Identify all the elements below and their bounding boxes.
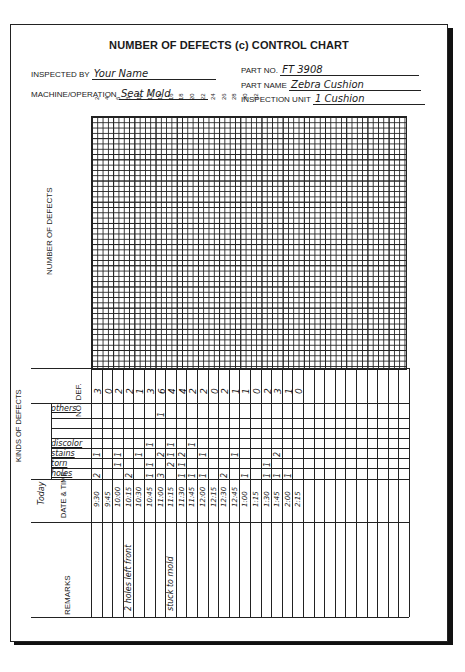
defect-count-cell[interactable]: 1 (188, 473, 197, 478)
time-cell[interactable]: 2:15 (294, 491, 302, 507)
column-tick-label: 28 (231, 93, 237, 100)
col-divider (314, 368, 315, 617)
kind-label-stains: stains (51, 449, 75, 458)
kind-label-torn: torn (51, 459, 67, 468)
time-cell[interactable]: 1:30 (263, 491, 271, 507)
no-def-cell[interactable]: 3 (273, 388, 283, 394)
defect-count-cell[interactable]: 1 (167, 452, 176, 457)
time-cell[interactable]: 2:00 (284, 491, 292, 507)
no-def-cell[interactable]: 0 (294, 388, 304, 394)
time-cell[interactable]: 10:45 (146, 487, 154, 507)
inspection-unit-value[interactable]: 1 Cushion (313, 94, 425, 105)
col-divider (197, 368, 198, 617)
no-def-cell[interactable]: 2 (199, 388, 209, 394)
defect-count-cell[interactable]: 3 (157, 473, 166, 478)
no-def-cell[interactable]: 2 (114, 388, 124, 394)
kind-label-others: others (51, 404, 76, 413)
remark-cell[interactable]: 2 holes left front (124, 545, 133, 611)
defect-count-cell[interactable]: 1 (199, 452, 208, 457)
time-cell[interactable]: 10:15 (125, 487, 133, 507)
no-def-cell[interactable]: 3 (146, 388, 156, 394)
time-cell[interactable]: 12:30 (220, 487, 228, 507)
defect-count-cell[interactable]: 1 (284, 473, 293, 478)
defect-count-cell[interactable]: 2 (125, 473, 134, 478)
no-def-cell[interactable]: 2 (263, 388, 273, 394)
no-def-cell[interactable]: 4 (167, 388, 177, 394)
defect-count-cell[interactable]: 2 (157, 452, 166, 457)
column-tick-label: 6 (115, 97, 121, 100)
col-divider (282, 368, 283, 617)
time-cell[interactable]: 11:30 (178, 487, 186, 507)
defect-count-cell[interactable]: 1 (241, 473, 250, 478)
column-tick-label: 2 (94, 97, 100, 100)
time-cell[interactable]: 10:30 (135, 487, 143, 507)
defect-count-cell[interactable]: 1 (178, 473, 187, 478)
defect-count-cell[interactable]: 1 (146, 473, 155, 478)
inspected-by-value[interactable]: Your Name (92, 69, 216, 80)
time-cell[interactable]: 1:00 (241, 491, 249, 507)
col-divider (367, 368, 368, 617)
no-def-cell[interactable]: 2 (220, 388, 230, 394)
defect-count-cell[interactable]: 1 (157, 412, 166, 417)
no-def-cell[interactable]: 1 (231, 388, 241, 394)
kinds-of-defects-label: KINDS OF DEFECTS (14, 389, 23, 462)
time-cell[interactable]: 11:15 (167, 487, 175, 507)
col-divider (409, 368, 410, 617)
defect-count-cell[interactable]: 2 (178, 452, 187, 457)
row-divider (31, 368, 409, 369)
time-cell[interactable]: 9:45 (104, 491, 112, 507)
no-def-cell[interactable]: 0 (104, 388, 114, 394)
defect-count-cell[interactable]: 1 (263, 462, 272, 467)
defect-count-cell[interactable]: 1 (273, 473, 282, 478)
defect-count-cell[interactable]: 2 (273, 452, 282, 457)
col-divider (388, 368, 389, 617)
part-no-value[interactable]: FT 3908 (280, 65, 419, 76)
time-cell[interactable]: 11:45 (188, 487, 196, 507)
defect-count-cell[interactable]: 1 (135, 452, 144, 457)
no-def-cell[interactable]: 0 (252, 388, 262, 394)
no-def-cell[interactable]: 1 (241, 388, 251, 394)
defect-count-cell[interactable]: 1 (167, 442, 176, 447)
defect-count-cell[interactable]: 2 (93, 473, 102, 478)
defect-count-cell[interactable]: 1 (114, 462, 123, 467)
time-cell[interactable]: 11:00 (157, 487, 165, 507)
time-cell[interactable]: 12:00 (199, 487, 207, 507)
no-def-cell[interactable]: 2 (188, 388, 198, 394)
no-def-cell[interactable]: 3 (93, 388, 103, 394)
defect-count-cell[interactable]: 1 (199, 473, 208, 478)
no-def-cell[interactable]: 1 (135, 388, 145, 394)
time-cell[interactable]: 1:45 (273, 491, 281, 507)
kind-label-holes: holes (51, 469, 72, 478)
no-def-cell[interactable]: 2 (125, 388, 135, 394)
remark-cell[interactable]: stuck to mold (166, 556, 175, 611)
defect-count-cell[interactable]: 1 (93, 452, 102, 457)
plot-grid[interactable] (91, 116, 407, 370)
no-def-cell[interactable]: 4 (178, 388, 188, 394)
defect-count-cell[interactable]: 1 (263, 473, 272, 478)
column-tick-label: 24 (210, 93, 216, 100)
time-cell[interactable]: 10:00 (114, 487, 122, 507)
column-tick-label: 10 (136, 93, 142, 100)
col-divider (335, 368, 336, 617)
no-def-cell[interactable]: 0 (210, 388, 220, 394)
no-def-cell[interactable]: 1 (284, 388, 294, 394)
col-divider (250, 368, 251, 617)
defect-count-cell[interactable]: 1 (231, 452, 240, 457)
inspected-by-field: INSPECTED BY Your Name (31, 69, 216, 80)
defect-count-cell[interactable]: 1 (188, 442, 197, 447)
defect-count-cell[interactable]: 1 (146, 442, 155, 447)
defect-count-cell[interactable]: 2 (167, 462, 176, 467)
col-divider (345, 368, 346, 617)
defect-count-cell[interactable]: 1 (178, 462, 187, 467)
time-cell[interactable]: 9:30 (93, 491, 101, 507)
part-name-value[interactable]: Zebra Cushion (289, 80, 421, 91)
no-def-cell[interactable]: 6 (157, 388, 167, 394)
time-cell[interactable]: 12:15 (210, 487, 218, 507)
defect-count-cell[interactable]: 2 (220, 473, 229, 478)
chart-title: NUMBER OF DEFECTS (c) CONTROL CHART (11, 39, 447, 51)
defect-count-cell[interactable]: 1 (146, 462, 155, 467)
time-cell[interactable]: 1:15 (252, 491, 260, 507)
column-tick-label: 32 (253, 93, 259, 100)
time-cell[interactable]: 12:45 (231, 487, 239, 507)
defect-count-cell[interactable]: 1 (114, 452, 123, 457)
